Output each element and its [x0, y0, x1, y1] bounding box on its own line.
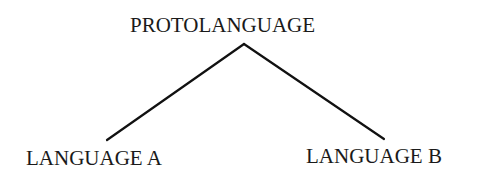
edge-to-language-a — [107, 44, 244, 140]
leaf-node-language-b: LANGUAGE B — [306, 146, 442, 167]
leaf-node-language-a: LANGUAGE A — [26, 148, 162, 169]
root-node-protolanguage: PROTOLANGUAGE — [130, 15, 315, 36]
edge-to-language-b — [244, 44, 384, 139]
